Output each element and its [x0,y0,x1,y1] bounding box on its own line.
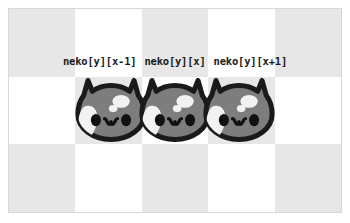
figure-canvas: neko[y][x-1] neko[y][x] neko[y][x+1] [0,0,350,223]
cat-eye-left [155,114,165,126]
cat-sprite [139,74,211,146]
board-cell [9,9,75,77]
board-cell [75,9,141,77]
board-cell [275,144,341,212]
board-cell [75,144,141,212]
cat-sprite-row [0,74,350,146]
board-cell [208,144,274,212]
cat-eye-right [185,114,195,126]
board-cell [9,144,75,212]
cat-eye-left [91,114,101,126]
board-cell [142,9,208,77]
cat-forehead-spot-small [173,105,182,112]
board-cell [208,9,274,77]
cat-sprite [75,74,147,146]
cat-eye-right [249,114,259,126]
board-cell [275,9,341,77]
cat-eye-right [121,114,131,126]
cat-sprite [203,74,275,146]
cat-eye-left [219,114,229,126]
cat-forehead-spot-small [237,105,246,112]
cat-forehead-spot-small [109,105,118,112]
board-cell [142,144,208,212]
